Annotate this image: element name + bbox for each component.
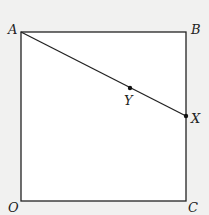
square-oabc xyxy=(21,32,186,201)
point-x xyxy=(184,114,188,118)
geometry-diagram: A B C O X Y xyxy=(0,0,209,215)
label-c: C xyxy=(188,200,198,215)
label-b: B xyxy=(190,22,201,37)
label-x: X xyxy=(190,111,201,126)
label-a: A xyxy=(7,22,17,37)
point-y xyxy=(128,86,132,90)
label-y: Y xyxy=(124,93,134,108)
label-o: O xyxy=(8,200,19,215)
